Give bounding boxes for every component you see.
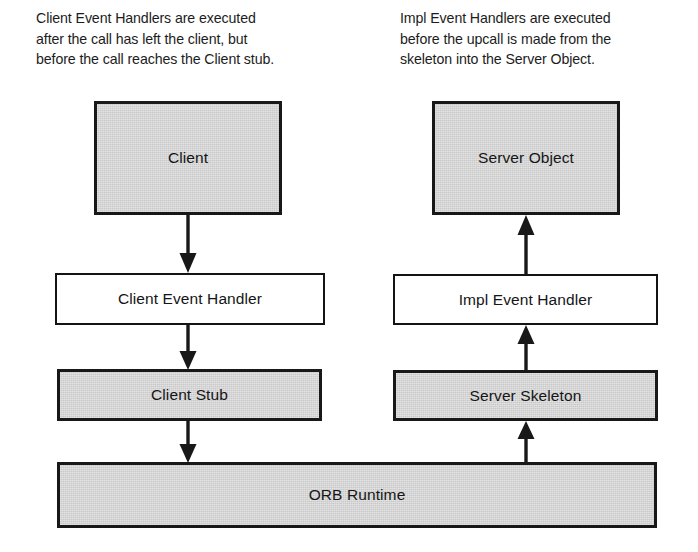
caption-client-event-handlers: Client Event Handlers are executed after… bbox=[36, 8, 366, 70]
node-server-object: Server Object bbox=[432, 101, 620, 215]
node-server-skeleton: Server Skeleton bbox=[393, 370, 658, 421]
arrow-orb-runtime-to-server-skeleton bbox=[513, 421, 539, 463]
arrow-impl-event-handler-to-server-object bbox=[513, 215, 539, 274]
node-impl-event-handler: Impl Event Handler bbox=[393, 274, 658, 325]
node-client-event-handler-label: Client Event Handler bbox=[118, 290, 262, 308]
caption-impl-event-handlers: Impl Event Handlers are executed before … bbox=[400, 8, 698, 70]
node-server-object-label: Server Object bbox=[478, 149, 574, 167]
arrow-client-event-handler-to-client-stub bbox=[175, 325, 201, 370]
node-server-skeleton-label: Server Skeleton bbox=[470, 387, 582, 405]
node-client-label: Client bbox=[168, 149, 208, 167]
arrow-client-stub-to-orb-runtime bbox=[175, 421, 201, 463]
diagram-canvas: Client Event Handlers are executed after… bbox=[0, 0, 698, 552]
node-impl-event-handler-label: Impl Event Handler bbox=[459, 291, 593, 309]
node-client-stub-label: Client Stub bbox=[151, 386, 228, 404]
node-client-event-handler: Client Event Handler bbox=[55, 273, 325, 325]
node-orb-runtime: ORB Runtime bbox=[57, 462, 657, 528]
node-client-stub: Client Stub bbox=[57, 369, 322, 421]
node-orb-runtime-label: ORB Runtime bbox=[309, 486, 406, 504]
arrow-server-skeleton-to-impl-event-handler bbox=[513, 325, 539, 370]
node-client: Client bbox=[94, 101, 282, 215]
arrow-client-to-client-event-handler bbox=[175, 215, 201, 273]
